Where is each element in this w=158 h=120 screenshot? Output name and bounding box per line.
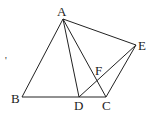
geometry-diagram: ABCDEF ' [0, 0, 158, 120]
point-label-E: E [138, 38, 146, 53]
point-label-F: F [95, 63, 102, 78]
segment-AD [63, 19, 79, 97]
point-label-A: A [57, 4, 67, 19]
segments [22, 19, 136, 97]
segment-CE [106, 45, 136, 97]
point-label-D: D [74, 98, 83, 113]
segment-AE [63, 19, 136, 45]
segment-AC [63, 19, 106, 97]
segment-DE [79, 45, 136, 97]
stray-mark: ' [5, 55, 7, 66]
point-label-B: B [11, 91, 20, 106]
point-label-C: C [102, 98, 111, 113]
segment-AB [22, 19, 63, 97]
